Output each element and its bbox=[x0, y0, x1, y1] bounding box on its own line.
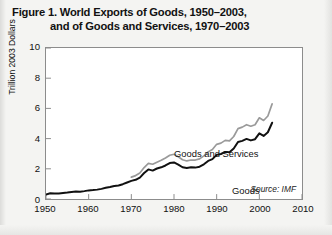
x-tick-label: 1970 bbox=[114, 204, 148, 214]
y-tick-label: 8 bbox=[18, 73, 40, 83]
source-note: Source: IMF bbox=[250, 184, 296, 194]
y-tick-label: 6 bbox=[18, 103, 40, 113]
x-axis-ticks bbox=[46, 194, 302, 199]
figure-panel: Figure 1. World Exports of Goods, 1950–2… bbox=[0, 0, 332, 235]
x-tick-label: 2010 bbox=[286, 204, 320, 214]
page-edge-right bbox=[324, 0, 332, 235]
y-tick-label: 2 bbox=[18, 164, 40, 174]
chart-svg bbox=[46, 48, 302, 199]
page-edge-left bbox=[0, 0, 6, 235]
series-label-goods-and-services: Goods and Services bbox=[174, 148, 258, 159]
page-edge-bottom bbox=[0, 225, 332, 235]
x-tick-label: 1950 bbox=[28, 204, 62, 214]
figure-title: Figure 1. World Exports of Goods, 1950–2… bbox=[12, 6, 312, 33]
x-tick-label: 1990 bbox=[200, 204, 234, 214]
x-tick-label: 2000 bbox=[243, 204, 277, 214]
y-axis-ticks bbox=[46, 48, 51, 199]
y-tick-label: 4 bbox=[18, 134, 40, 144]
x-tick-label: 1980 bbox=[157, 204, 191, 214]
x-tick-label: 1960 bbox=[71, 204, 105, 214]
figure-title-line-2: and of Goods and Services, 1970–2003 bbox=[12, 20, 312, 34]
plot-area: Goods and Services Goods Source: IMF bbox=[45, 47, 303, 200]
y-axis-title: Trillion 2003 Dollars bbox=[7, 1, 17, 113]
figure-title-line-1: Figure 1. World Exports of Goods, 1950–2… bbox=[12, 6, 312, 20]
y-tick-label: 10 bbox=[18, 42, 40, 52]
